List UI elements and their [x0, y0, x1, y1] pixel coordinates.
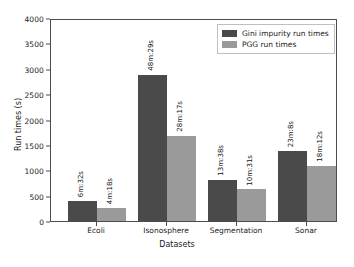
bar-segmentation-pgg [237, 189, 266, 221]
y-tick-label: 0 [39, 218, 44, 227]
legend-label-pgg: PGG run times [242, 40, 296, 49]
legend-swatch-icon [222, 30, 237, 37]
y-axis: 4000 3500 3000 2500 2000 1500 1000 500 0… [0, 0, 50, 267]
bar-label-sonar-pgg: 18m:12s [316, 131, 324, 162]
x-tick-label-isonosphere: Isonosphere [143, 226, 189, 235]
bar-label-ecoli-pgg: 4m:18s [106, 178, 114, 204]
bar-label-ecoli-gini: 6m:32s [77, 171, 85, 197]
bar-label-segmentation-gini: 13m:38s [217, 145, 225, 176]
x-tick-label-ecoli: Ecoli [87, 226, 105, 235]
y-tick-label: 3000 [25, 65, 45, 74]
x-axis-label: Datasets [0, 240, 354, 249]
y-tick-label: 2000 [25, 116, 45, 125]
bar-isonosphere-pgg [167, 136, 196, 221]
y-tick-label: 500 [29, 192, 44, 201]
bar-label-isonosphere-pgg: 28m:17s [176, 101, 184, 132]
bar-ecoli-gini [68, 201, 97, 221]
y-tick-label: 1500 [25, 141, 45, 150]
y-tick-label: 1000 [25, 167, 45, 176]
legend-item-gini: Gini impurity run times [222, 28, 329, 39]
plot-area: 6m:32s 4m:18s 48m:29s 28m:17s 13m:38s 10… [50, 19, 337, 222]
bar-sonar-pgg [307, 166, 336, 221]
x-tick-label-sonar: Sonar [295, 226, 317, 235]
y-tick-label: 4000 [25, 15, 45, 24]
bar-label-sonar-gini: 23m:8s [287, 121, 295, 147]
bar-ecoli-pgg [97, 208, 126, 221]
y-axis-label: Run times (s) [14, 65, 23, 185]
bar-label-isonosphere-gini: 48m:29s [147, 40, 155, 71]
bar-segmentation-gini [208, 180, 237, 221]
x-tick-label-segmentation: Segmentation [210, 226, 263, 235]
legend-label-gini: Gini impurity run times [242, 29, 329, 38]
bar-chart-figure: 4000 3500 3000 2500 2000 1500 1000 500 0… [0, 0, 354, 267]
y-tick-label: 3500 [25, 40, 45, 49]
legend-item-pgg: PGG run times [222, 39, 329, 50]
bar-isonosphere-gini [138, 75, 167, 221]
legend-swatch-icon [222, 41, 237, 48]
bar-sonar-gini [278, 151, 307, 221]
y-tick-label: 2500 [25, 91, 45, 100]
bar-label-segmentation-pgg: 10m:31s [246, 155, 254, 186]
chart-legend: Gini impurity run times PGG run times [217, 24, 335, 54]
